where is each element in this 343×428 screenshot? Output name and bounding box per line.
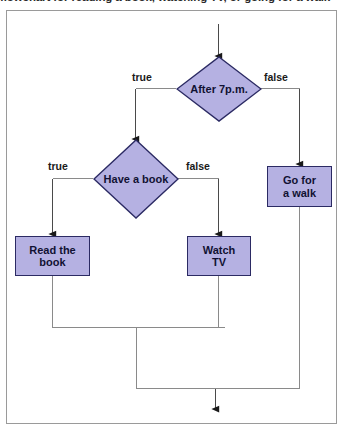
edge-label-after7-false: false	[264, 71, 288, 83]
process-read-the-book[interactable]: Read the book	[15, 236, 90, 276]
edge-label-havebook-true: true	[48, 160, 68, 172]
edge-label-after7-true: true	[132, 71, 152, 83]
process-go-for-a-walk-line2: a walk	[283, 187, 316, 200]
decision-have-a-book[interactable]: Have a book	[93, 139, 179, 219]
edge-label-havebook-false: false	[186, 160, 210, 172]
process-go-for-a-walk[interactable]: Go for a walk	[267, 166, 332, 207]
process-read-the-book-line2: book	[39, 256, 65, 269]
decision-after-7pm-label: After 7p.m.	[176, 56, 262, 122]
decision-have-a-book-label: Have a book	[93, 139, 179, 219]
process-watch-tv-line2: TV	[212, 256, 226, 269]
process-go-for-a-walk-line1: Go for	[283, 174, 316, 187]
process-watch-tv[interactable]: Watch TV	[187, 236, 251, 276]
process-read-the-book-line1: Read the	[29, 244, 75, 257]
decision-after-7pm[interactable]: After 7p.m.	[176, 56, 262, 122]
flowchart-screenshot: flowchart for reading a book, watching T…	[0, 0, 343, 428]
process-watch-tv-line1: Watch	[203, 244, 236, 257]
